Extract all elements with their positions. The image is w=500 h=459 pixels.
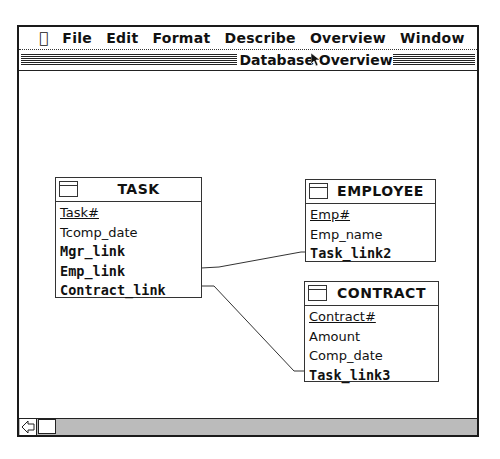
field-task-link3[interactable]: Task_link3 — [309, 366, 438, 386]
horizontal-scrollbar[interactable] — [19, 418, 477, 435]
field-amount[interactable]: Amount — [309, 327, 438, 347]
entity-header[interactable]: EMPLOYEE — [306, 180, 435, 204]
field-comp-date[interactable]: Comp_date — [309, 346, 438, 366]
field-task-id[interactable]: Task# — [60, 203, 201, 223]
menu-file[interactable]: File — [62, 30, 92, 46]
field-contract-id[interactable]: Contract# — [309, 307, 438, 327]
menu-edit[interactable]: Edit — [106, 30, 138, 46]
diagram-canvas[interactable]: TASK Task# Tcomp_date Mgr_link Emp_link … — [19, 71, 477, 417]
field-tcomp-date[interactable]: Tcomp_date — [60, 223, 201, 243]
field-contract-link[interactable]: Contract_link — [60, 281, 201, 301]
entity-header[interactable]: CONTRACT — [305, 282, 438, 306]
title-bar-stripes-left — [21, 54, 237, 66]
title-bar-stripes-right — [393, 54, 475, 66]
menu-bar:  File Edit Format Describe Overview Win… — [19, 27, 477, 50]
table-icon — [308, 285, 327, 301]
mouse-pointer-icon — [311, 53, 321, 67]
entity-task[interactable]: TASK Task# Tcomp_date Mgr_link Emp_link … — [55, 177, 202, 298]
entity-contract[interactable]: CONTRACT Contract# Amount Comp_date Task… — [304, 281, 439, 382]
scroll-left-arrow-icon[interactable] — [20, 419, 37, 435]
window-title-bar[interactable]: Database Overview — [19, 51, 477, 71]
table-icon — [309, 183, 328, 199]
link-task-employee — [201, 252, 305, 268]
entity-title: EMPLOYEE — [330, 180, 431, 203]
table-icon — [59, 181, 78, 197]
field-emp-name[interactable]: Emp_name — [310, 225, 435, 245]
entity-title: CONTRACT — [329, 282, 434, 305]
menu-describe[interactable]: Describe — [225, 30, 296, 46]
link-task-contract — [201, 286, 304, 371]
menu-window[interactable]: Window — [400, 30, 465, 46]
menu-overview[interactable]: Overview — [310, 30, 386, 46]
field-mgr-link[interactable]: Mgr_link — [60, 242, 201, 262]
entity-employee[interactable]: EMPLOYEE Emp# Emp_name Task_link2 — [305, 179, 436, 262]
entity-title: TASK — [80, 178, 197, 201]
scroll-thumb[interactable] — [38, 419, 56, 434]
field-task-link2[interactable]: Task_link2 — [310, 244, 435, 264]
entity-header[interactable]: TASK — [56, 178, 201, 202]
menu-format[interactable]: Format — [152, 30, 210, 46]
field-emp-link[interactable]: Emp_link — [60, 262, 201, 282]
app-window:  File Edit Format Describe Overview Win… — [17, 25, 479, 437]
field-emp-id[interactable]: Emp# — [310, 205, 435, 225]
apple-icon[interactable]:  — [39, 29, 48, 47]
